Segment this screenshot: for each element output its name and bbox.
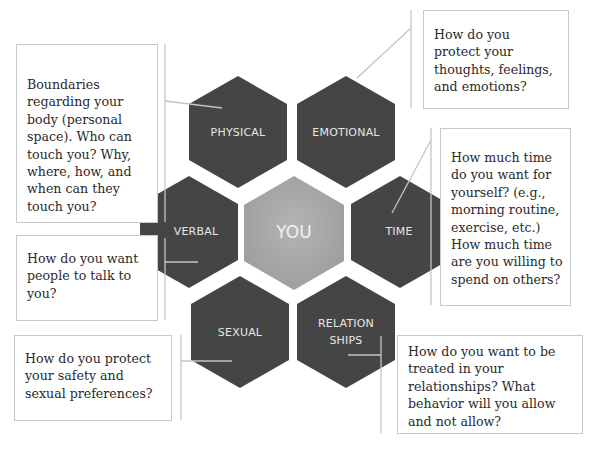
hexagon-sexual: SEXUAL xyxy=(191,276,289,388)
hexagon-you: YOU xyxy=(244,176,344,290)
hexagon-relationships-label-line1: RELATION xyxy=(318,317,374,330)
callout-verbal: How do you want people to talk to you? xyxy=(16,235,158,321)
hexagon-physical-label: PHYSICAL xyxy=(211,126,266,139)
hexagon-relationships: RELATION SHIPS xyxy=(297,276,395,388)
callout-time: How much time do you want for yourself? … xyxy=(440,128,571,306)
hexagon-time-label: TIME xyxy=(384,225,412,238)
callout-emotional-text: How do you protect your thoughts, feelin… xyxy=(434,26,560,96)
hexagon-you-label: YOU xyxy=(275,222,311,242)
callout-physical-text: Boundaries regarding your body (personal… xyxy=(27,76,149,215)
callout-relationships-text: How do you want to be treated in your re… xyxy=(408,343,574,430)
hexagon-emotional: EMOTIONAL xyxy=(297,76,395,188)
callout-sexual: How do you protect your safety and sexua… xyxy=(14,335,172,421)
callout-physical: Boundaries regarding your body (personal… xyxy=(16,44,158,223)
hexagon-physical: PHYSICAL xyxy=(189,76,287,188)
callout-time-text: How much time do you want for yourself? … xyxy=(451,149,566,288)
hexagon-time: TIME xyxy=(351,176,449,288)
hexagon-relationships-label-line2: SHIPS xyxy=(329,334,362,347)
emotional-connector xyxy=(357,28,411,78)
hexagon-sexual-label: SEXUAL xyxy=(218,326,263,339)
callout-sexual-text: How do you protect your safety and sexua… xyxy=(25,350,165,402)
hexagon-verbal-label: VERBAL xyxy=(174,225,219,238)
callout-relationships: How do you want to be treated in your re… xyxy=(397,335,583,434)
hexagon-emotional-label: EMOTIONAL xyxy=(312,126,380,139)
callout-emotional: How do you protect your thoughts, feelin… xyxy=(423,10,569,109)
callout-verbal-text: How do you want people to talk to you? xyxy=(27,250,149,302)
